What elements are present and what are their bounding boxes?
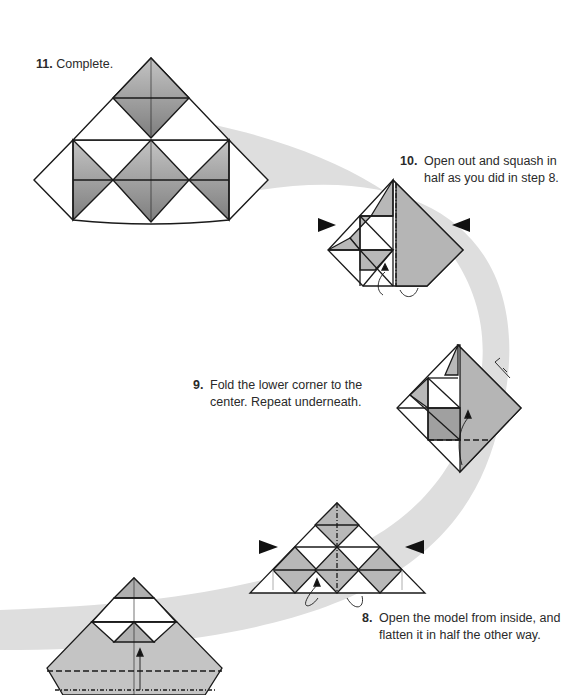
step-11-caption: 11. Complete.	[36, 56, 113, 73]
step-text-line2: center. Repeat underneath.	[210, 395, 362, 409]
step-10-caption: 10.Open out and squash in half as you di…	[400, 153, 559, 187]
push-arrow-left-8	[259, 540, 278, 554]
push-arrow-left-10	[318, 218, 336, 232]
step-text-line1: Open out and squash in	[424, 154, 557, 168]
step-8-caption: 8.Open the model from inside, and flatte…	[362, 610, 560, 644]
step-10-figure	[328, 180, 463, 297]
step-text: Complete.	[56, 57, 113, 71]
step-text-line2: flatten it in half the other way.	[379, 628, 541, 642]
step-9-caption: 9.Fold the lower corner to the center. R…	[193, 377, 362, 411]
step-text-line1: Open the model from inside, and	[379, 611, 560, 625]
origami-diagram	[0, 0, 578, 695]
step-number: 11.	[36, 56, 53, 73]
step-number: 9.	[193, 377, 210, 394]
step-text-line2: half as you did in step 8.	[424, 171, 559, 185]
step-number: 8.	[362, 610, 379, 627]
step-text-line1: Fold the lower corner to the	[210, 378, 362, 392]
step-number: 10.	[400, 153, 424, 170]
